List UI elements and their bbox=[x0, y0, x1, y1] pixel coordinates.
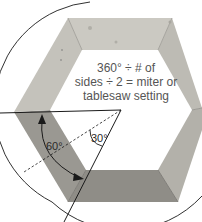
frame-board-top bbox=[68, 18, 172, 50]
caption-line-3: tablesaw setting bbox=[72, 89, 180, 103]
sixty-degree-label: 60° bbox=[46, 140, 63, 152]
caption-line-1: 360° ÷ # of bbox=[72, 61, 180, 75]
angle-construction bbox=[0, 110, 121, 222]
hexagon-miter-diagram: 60° 30° bbox=[0, 0, 202, 222]
caption-line-2: sides ÷ 2 = miter or bbox=[72, 75, 180, 89]
formula-caption: 360° ÷ # of sides ÷ 2 = miter or tablesa… bbox=[72, 61, 180, 103]
thirty-degree-label: 30° bbox=[91, 132, 108, 144]
